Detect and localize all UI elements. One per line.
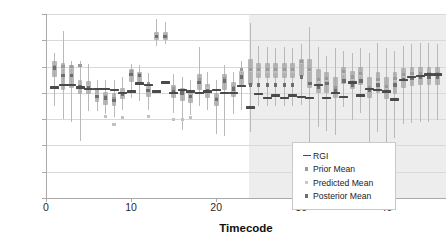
posterior-mean-marker bbox=[104, 96, 107, 99]
rgi-marker bbox=[152, 90, 161, 92]
posterior-mean-marker bbox=[215, 98, 218, 101]
rgi-marker bbox=[203, 90, 212, 92]
posterior-mean-marker bbox=[232, 87, 235, 90]
rgi-marker bbox=[161, 81, 170, 83]
chart-legend: RGI Prior Mean Predicted Mean Posterior … bbox=[292, 142, 396, 210]
rgi-marker bbox=[305, 97, 314, 99]
rgi-marker bbox=[322, 97, 331, 99]
rgi-marker bbox=[433, 73, 442, 75]
prior-mean-marker bbox=[308, 68, 311, 71]
posterior-mean-marker bbox=[70, 74, 73, 77]
y-tick-mark bbox=[42, 93, 46, 94]
prior-mean-marker bbox=[249, 68, 252, 71]
predicted-mean-marker bbox=[172, 118, 175, 121]
legend-item-rgi: RGI bbox=[300, 150, 389, 162]
rgi-marker bbox=[263, 97, 272, 99]
posterior-mean-marker bbox=[351, 83, 354, 86]
posterior-mean-marker bbox=[257, 83, 260, 86]
y-axis-line bbox=[46, 14, 47, 198]
rgi-marker bbox=[390, 98, 399, 100]
posterior-mean-marker bbox=[112, 99, 115, 102]
posterior-mean-marker bbox=[359, 79, 362, 82]
rgi-marker bbox=[288, 94, 297, 96]
x-axis-label: Timecode bbox=[219, 222, 272, 234]
rgi-marker bbox=[186, 90, 195, 92]
rgi-marker bbox=[144, 84, 153, 86]
posterior-mean-marker bbox=[274, 83, 277, 86]
rgi-marker bbox=[280, 97, 289, 99]
rgi-marker bbox=[67, 84, 76, 86]
posterior-mean-marker bbox=[249, 83, 252, 86]
predicted-mean-marker bbox=[189, 116, 192, 119]
y-tick-mark bbox=[42, 145, 46, 146]
prior-mean-marker bbox=[410, 72, 413, 75]
y-tick-mark bbox=[42, 67, 46, 68]
predicted-mean-marker bbox=[181, 118, 184, 121]
predicted-mean-marker bbox=[147, 115, 150, 118]
posterior-mean-marker bbox=[317, 86, 320, 89]
posterior-mean-marker bbox=[180, 91, 183, 94]
posterior-mean-marker bbox=[53, 66, 56, 69]
posterior-mean-marker bbox=[300, 75, 303, 78]
posterior-mean-marker bbox=[436, 75, 439, 78]
rgi-marker bbox=[101, 88, 110, 90]
posterior-mean-marker bbox=[308, 82, 311, 85]
posterior-mean-marker bbox=[189, 95, 192, 98]
predicted-mean-marker bbox=[121, 116, 124, 119]
rgi-marker bbox=[135, 82, 144, 84]
prior-mean-marker bbox=[266, 68, 269, 71]
legend-item-predicted-mean: Predicted Mean bbox=[300, 177, 389, 189]
y-tick-mark bbox=[42, 172, 46, 173]
posterior-mean-marker bbox=[138, 74, 141, 77]
prior-mean-marker bbox=[70, 65, 73, 68]
prior-mean-marker bbox=[78, 64, 81, 67]
gridline bbox=[46, 14, 446, 15]
posterior-mean-marker bbox=[197, 81, 200, 84]
posterior-mean-marker bbox=[283, 83, 286, 86]
y-tick-mark bbox=[42, 14, 46, 15]
legend-label: Prior Mean bbox=[313, 164, 355, 174]
y-tick-mark bbox=[42, 119, 46, 120]
whisker-line bbox=[326, 56, 327, 131]
prior-mean-marker bbox=[300, 60, 303, 63]
prior-mean-marker bbox=[291, 68, 294, 71]
dash-icon bbox=[300, 155, 313, 157]
rgi-marker bbox=[229, 92, 238, 94]
rgi-marker bbox=[50, 86, 59, 88]
rgi-marker bbox=[339, 96, 348, 98]
prior-mean-marker bbox=[376, 78, 379, 81]
rgi-marker bbox=[246, 106, 255, 108]
prior-mean-marker bbox=[325, 77, 328, 80]
y-tick-mark bbox=[42, 40, 46, 41]
rgi-marker bbox=[118, 92, 127, 94]
x-tick-label: 20 bbox=[210, 201, 222, 213]
gridline bbox=[46, 40, 446, 41]
posterior-mean-marker bbox=[393, 83, 396, 86]
rgi-marker bbox=[220, 92, 229, 94]
prior-mean-marker bbox=[61, 65, 64, 68]
prior-mean-marker bbox=[342, 70, 345, 73]
whisker-line bbox=[309, 27, 310, 148]
legend-item-prior-mean: Prior Mean bbox=[300, 163, 389, 175]
posterior-mean-marker bbox=[163, 35, 166, 38]
square-marker-icon bbox=[300, 181, 313, 184]
legend-label: RGI bbox=[313, 151, 328, 161]
predicted-mean-marker bbox=[104, 115, 107, 118]
posterior-mean-marker bbox=[240, 75, 243, 78]
prior-mean-marker bbox=[274, 68, 277, 71]
rgi-marker bbox=[254, 93, 263, 95]
prior-mean-marker bbox=[351, 75, 354, 78]
legend-label: Predicted Mean bbox=[313, 178, 373, 188]
whisker-line bbox=[369, 53, 370, 142]
chart-figure: 246810121416 010203040 Ash (%) Timecode … bbox=[0, 0, 448, 252]
x-tick-label: 0 bbox=[43, 201, 49, 213]
whisker-line bbox=[80, 61, 81, 141]
posterior-mean-marker bbox=[376, 83, 379, 86]
posterior-mean-marker bbox=[223, 79, 226, 82]
prior-mean-marker bbox=[317, 78, 320, 81]
prior-mean-marker bbox=[402, 73, 405, 76]
posterior-mean-marker bbox=[129, 73, 132, 76]
posterior-mean-marker bbox=[342, 79, 345, 82]
posterior-mean-marker bbox=[95, 95, 98, 98]
posterior-mean-marker bbox=[155, 35, 158, 38]
